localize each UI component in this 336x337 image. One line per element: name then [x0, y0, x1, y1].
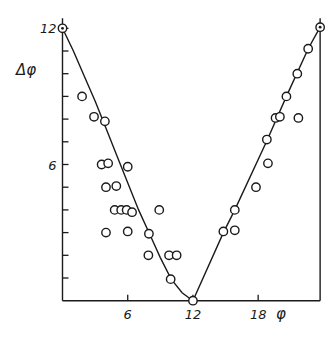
measured-point: [304, 45, 312, 53]
measured-point: [166, 275, 174, 283]
measured-point: [282, 92, 290, 100]
measured-point: [104, 159, 112, 167]
measured-point: [293, 70, 301, 78]
x-tick-label: 12: [185, 307, 202, 322]
measured-point: [231, 226, 239, 234]
measured-point: [276, 113, 284, 121]
measured-point: [102, 228, 110, 236]
y-tick-label: 6: [48, 158, 56, 173]
measured-point: [219, 227, 227, 235]
measured-point: [90, 113, 98, 121]
x-tick-label: 18: [250, 307, 267, 322]
measured-point: [128, 208, 136, 216]
measured-point: [252, 183, 260, 191]
measured-point: [124, 163, 132, 171]
data-points: [58, 23, 324, 305]
y-tick-label: 12: [40, 21, 57, 36]
measured-point: [231, 206, 239, 214]
measured-point: [172, 251, 180, 259]
measured-point: [112, 182, 120, 190]
reference-point-dot: [319, 26, 322, 29]
y-axis-label: Δφ: [15, 61, 36, 79]
ticks: [63, 28, 259, 300]
measured-point: [78, 92, 86, 100]
measured-point: [155, 206, 163, 214]
axes: [63, 18, 321, 300]
measured-point: [294, 114, 302, 122]
reference-point-dot: [61, 27, 64, 30]
fit-right-line: [193, 27, 320, 301]
measured-point: [144, 251, 152, 259]
x-axis-label: φ: [276, 305, 286, 323]
measured-point: [145, 230, 153, 238]
measured-point: [264, 159, 272, 167]
x-tick-label: 6: [124, 307, 132, 322]
chart: 61218612 Δφ φ: [0, 0, 336, 337]
tick-labels: 61218612: [40, 21, 266, 321]
measured-point: [189, 297, 197, 305]
measured-point: [124, 227, 132, 235]
measured-point: [263, 135, 271, 143]
measured-point: [101, 117, 109, 125]
measured-point: [102, 183, 110, 191]
